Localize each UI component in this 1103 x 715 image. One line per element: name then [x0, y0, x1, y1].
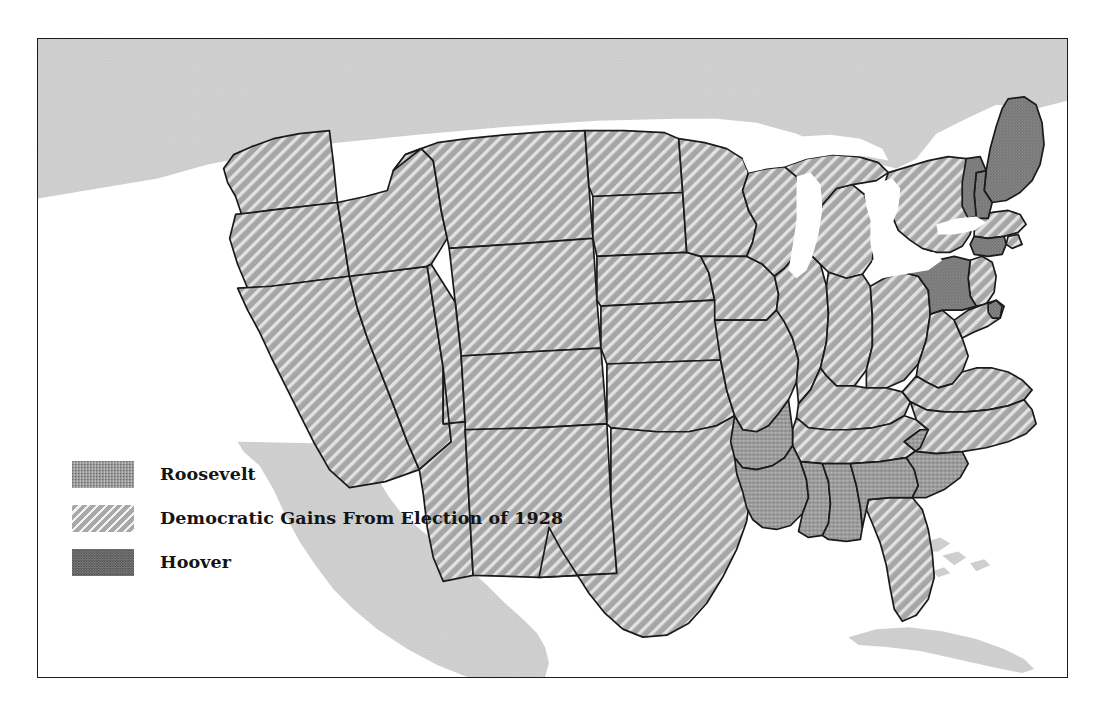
- state-kansas: [601, 300, 721, 364]
- state-maine: [984, 97, 1044, 203]
- legend-swatch-democratic-gains: [72, 505, 134, 532]
- state-indiana: [820, 272, 872, 386]
- state-oregon: [230, 202, 350, 288]
- legend-swatch-hoover: [72, 549, 134, 576]
- state-north-dakota: [585, 131, 683, 197]
- state-oklahoma: [607, 360, 735, 432]
- state-nebraska: [597, 252, 715, 306]
- state-florida: [866, 498, 934, 622]
- state-wyoming: [449, 238, 601, 356]
- state-connecticut: [970, 236, 1006, 256]
- state-colorado: [461, 348, 607, 430]
- legend-swatch-roosevelt: [72, 461, 134, 488]
- state-delaware: [988, 300, 1002, 318]
- legend-item-democratic-gains: Democratic Gains From Election of 1928: [72, 496, 492, 540]
- legend-label-hoover: Hoover: [160, 552, 231, 572]
- legend-item-roosevelt: Roosevelt: [72, 452, 492, 496]
- legend-item-hoover: Hoover: [72, 540, 492, 584]
- legend-label-democratic-gains: Democratic Gains From Election of 1928: [160, 508, 563, 528]
- cuba-landmass: [848, 627, 1034, 673]
- state-rhode-island: [1006, 234, 1022, 248]
- state-south-dakota: [593, 193, 687, 257]
- state-idaho: [337, 149, 447, 277]
- legend-label-roosevelt: Roosevelt: [160, 464, 256, 484]
- map-legend: Roosevelt Democratic Gains From Election…: [72, 452, 492, 584]
